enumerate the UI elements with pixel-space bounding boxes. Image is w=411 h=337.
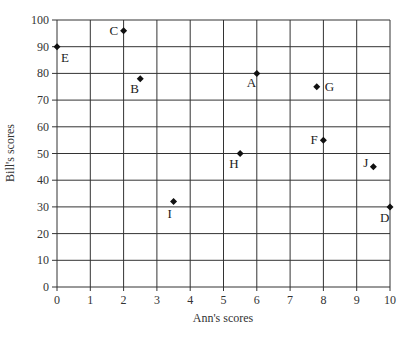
diamond-marker-icon [54, 43, 61, 50]
x-tick-label: 10 [384, 293, 396, 307]
x-tick-label: 9 [354, 293, 360, 307]
point-label: D [380, 210, 389, 225]
y-tick-label: 60 [37, 120, 49, 134]
x-axis-ticks: 012345678910 [54, 293, 396, 307]
data-point-B: B [130, 75, 144, 96]
data-point-I: I [168, 198, 178, 221]
diamond-marker-icon [320, 137, 327, 144]
data-point-J: J [363, 155, 377, 171]
y-tick-label: 40 [37, 173, 49, 187]
x-tick-label: 3 [154, 293, 160, 307]
y-tick-label: 80 [37, 66, 49, 80]
x-tick-label: 4 [187, 293, 193, 307]
x-axis-label: Ann's scores [193, 311, 254, 325]
y-tick-label: 50 [37, 147, 49, 161]
x-tick-label: 8 [320, 293, 326, 307]
point-label: B [130, 81, 139, 96]
x-tick-label: 7 [287, 293, 293, 307]
diamond-marker-icon [370, 163, 377, 170]
data-point-C: C [110, 23, 128, 38]
x-tick-label: 0 [54, 293, 60, 307]
x-tick-label: 1 [87, 293, 93, 307]
x-tick-label: 6 [254, 293, 260, 307]
point-label: J [363, 155, 368, 170]
x-tick-label: 2 [121, 293, 127, 307]
scatter-chart: 0102030405060708090100 012345678910 ABCD… [0, 0, 411, 337]
data-point-F: F [310, 132, 327, 147]
diamond-marker-icon [313, 83, 320, 90]
y-tick-label: 70 [37, 93, 49, 107]
diamond-marker-icon [170, 198, 177, 205]
point-label: I [168, 206, 172, 221]
point-label: H [229, 156, 238, 171]
y-axis-ticks: 0102030405060708090100 [31, 13, 49, 294]
diamond-marker-icon [120, 27, 127, 34]
y-tick-label: 10 [37, 253, 49, 267]
y-tick-label: 30 [37, 200, 49, 214]
point-label: F [310, 132, 317, 147]
point-label: G [325, 79, 334, 94]
y-tick-label: 100 [31, 13, 49, 27]
y-tick-label: 90 [37, 40, 49, 54]
y-tick-label: 0 [43, 280, 49, 294]
point-label: A [247, 75, 257, 90]
y-tick-label: 20 [37, 227, 49, 241]
grid-lines [52, 20, 390, 291]
x-tick-label: 5 [221, 293, 227, 307]
point-label: E [61, 50, 69, 65]
point-label: C [110, 23, 119, 38]
y-axis-label: Bill's scores [3, 124, 17, 182]
